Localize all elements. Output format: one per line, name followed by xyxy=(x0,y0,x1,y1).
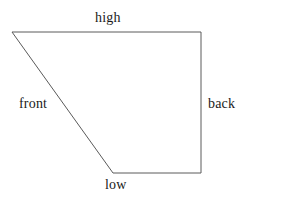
edge-label-low: low xyxy=(105,177,127,192)
diagram-canvas: high front back low xyxy=(0,0,284,198)
edge-label-front: front xyxy=(19,96,47,111)
edge-label-back: back xyxy=(208,96,235,111)
edge-label-high: high xyxy=(95,10,121,25)
